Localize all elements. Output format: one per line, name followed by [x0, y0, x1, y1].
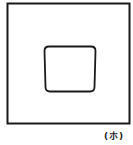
diagram-canvas [0, 0, 133, 145]
inner-rounded-square [45, 47, 96, 92]
outer-square [8, 4, 130, 124]
figure-label: (ホ) [104, 129, 124, 142]
diagram-figure: (ホ) [0, 0, 133, 145]
